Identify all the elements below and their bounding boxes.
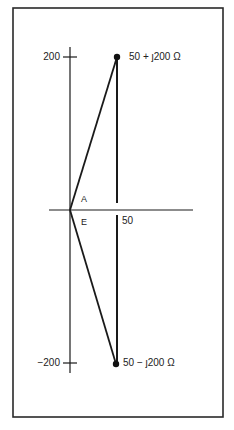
point-negative-reactance (113, 361, 119, 367)
angle-label-a: A (81, 195, 87, 204)
impedance-vector-negative (70, 210, 116, 364)
impedance-vector-positive (70, 57, 117, 210)
tick-label-200: 200 (34, 52, 60, 62)
tick-label-50: 50 (122, 216, 133, 226)
point-label-positive: 50 + ȷ200 Ω (129, 52, 181, 62)
point-label-negative: 50 − ȷ200 Ω (123, 358, 175, 368)
angle-label-e: E (81, 218, 87, 227)
tick-label-neg-200: −200 (28, 358, 60, 368)
point-positive-reactance (114, 54, 120, 60)
